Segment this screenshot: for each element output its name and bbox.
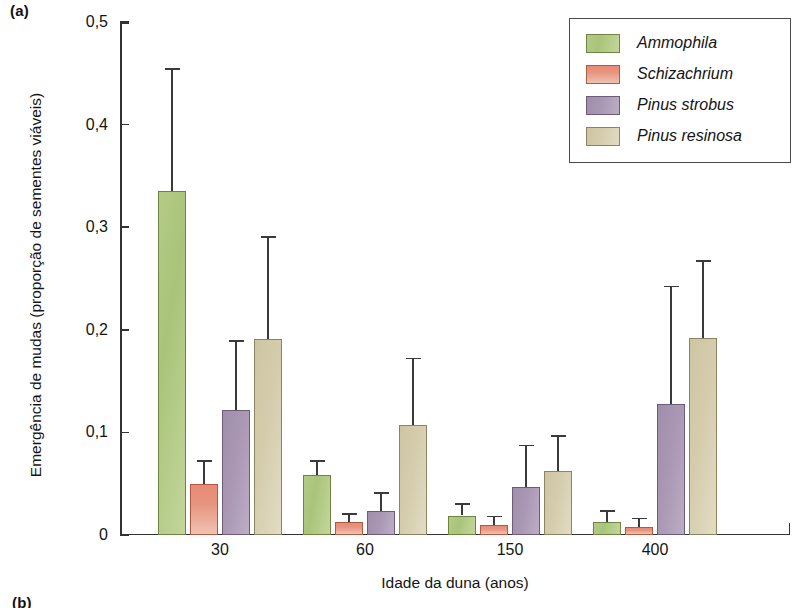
y-tick-mark xyxy=(120,21,129,23)
legend-label: Pinus resinosa xyxy=(637,127,742,145)
y-axis-line xyxy=(120,22,122,535)
error-bar-line xyxy=(670,286,671,404)
y-tick-mark xyxy=(120,329,129,331)
bar-schizachrium-30 xyxy=(190,484,218,535)
bar-pinus-resinosa-60 xyxy=(399,425,427,535)
panel-a-label: (a) xyxy=(10,2,29,19)
error-bar-cap xyxy=(197,460,212,462)
y-axis-title: Emergência de mudas (proporção de sement… xyxy=(27,35,45,535)
y-tick-mark xyxy=(120,124,129,126)
legend-swatch-icon xyxy=(586,127,620,146)
x-group-label-400: 400 xyxy=(642,541,669,559)
error-bar-cap xyxy=(664,286,679,288)
y-tick-mark xyxy=(120,432,129,434)
error-bar-cap xyxy=(455,503,470,505)
error-bar-line xyxy=(606,510,607,521)
x-group-label-150: 150 xyxy=(497,541,524,559)
x-group-label-30: 30 xyxy=(211,541,229,559)
error-bar-cap xyxy=(519,445,534,447)
bar-schizachrium-150 xyxy=(480,525,508,535)
legend-item-pinus-strobus: Pinus strobus xyxy=(586,94,734,116)
bar-schizachrium-60 xyxy=(335,522,363,535)
error-bar-line xyxy=(316,460,317,475)
bar-pinus-strobus-30 xyxy=(222,410,250,535)
error-bar-line xyxy=(525,445,526,487)
bar-schizachrium-400 xyxy=(625,527,653,535)
y-tick-mark xyxy=(120,226,129,228)
legend-label: Pinus strobus xyxy=(637,96,734,114)
error-bar-line xyxy=(380,492,381,511)
error-bar-cap xyxy=(165,68,180,70)
error-bar-cap xyxy=(487,516,502,518)
panel-b-label: (b) xyxy=(12,594,32,608)
error-bar-cap xyxy=(342,513,357,515)
bar-pinus-resinosa-30 xyxy=(254,339,282,535)
error-bar-line xyxy=(267,236,268,339)
bar-pinus-resinosa-400 xyxy=(689,338,717,535)
error-bar-line xyxy=(702,260,703,338)
error-bar-cap xyxy=(551,435,566,437)
x-axis-title: Idade da duna (anos) xyxy=(120,574,790,592)
y-tick-label: 0,3 xyxy=(86,218,108,236)
bar-pinus-strobus-150 xyxy=(512,487,540,535)
error-bar-line xyxy=(235,340,236,410)
legend-label: Ammophila xyxy=(637,34,717,52)
bar-ammophila-150 xyxy=(448,516,476,535)
bar-pinus-resinosa-150 xyxy=(544,471,572,535)
y-tick-label: 0,1 xyxy=(86,423,108,441)
error-bar-line xyxy=(171,68,172,191)
bar-ammophila-400 xyxy=(593,522,621,535)
error-bar-cap xyxy=(310,460,325,462)
error-bar-cap xyxy=(406,358,421,360)
error-bar-cap xyxy=(261,236,276,238)
y-tick-label: 0,4 xyxy=(86,116,108,134)
legend: AmmophilaSchizachriumPinus strobusPinus … xyxy=(569,18,791,163)
error-bar-cap xyxy=(229,340,244,342)
error-bar-line xyxy=(203,460,204,484)
legend-swatch-icon xyxy=(586,34,620,53)
bar-ammophila-30 xyxy=(158,191,186,535)
error-bar-cap xyxy=(696,260,711,262)
error-bar-line xyxy=(461,503,462,515)
bar-ammophila-60 xyxy=(303,475,331,535)
legend-item-schizachrium: Schizachrium xyxy=(586,63,733,85)
error-bar-line xyxy=(412,358,413,426)
y-tick-label: 0 xyxy=(99,526,108,544)
y-tick-mark xyxy=(120,534,129,536)
y-tick-label: 0,5 xyxy=(86,13,108,31)
error-bar-cap xyxy=(374,492,389,494)
figure-panel-a: (a) (b) Emergência de mudas (proporção d… xyxy=(0,0,804,608)
legend-label: Schizachrium xyxy=(637,65,733,83)
x-axis-right-cap xyxy=(789,523,791,534)
error-bar-line xyxy=(557,435,558,471)
bar-pinus-strobus-400 xyxy=(657,404,685,535)
legend-item-pinus-resinosa: Pinus resinosa xyxy=(586,125,742,147)
legend-swatch-icon xyxy=(586,65,620,84)
error-bar-cap xyxy=(600,510,615,512)
legend-swatch-icon xyxy=(586,96,620,115)
error-bar-cap xyxy=(632,518,647,520)
y-tick-label: 0,2 xyxy=(86,321,108,339)
legend-item-ammophila: Ammophila xyxy=(586,32,717,54)
bar-pinus-strobus-60 xyxy=(367,511,395,535)
x-group-label-60: 60 xyxy=(356,541,374,559)
